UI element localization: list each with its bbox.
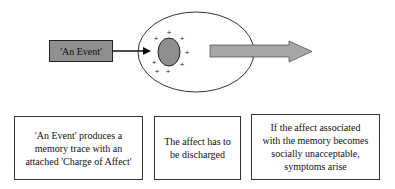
box-line: The affect has to — [164, 135, 231, 148]
box-line: symptoms arise — [263, 160, 369, 173]
box-line: memory trace with an — [25, 142, 131, 155]
plus-icon: + — [180, 34, 185, 43]
discharge-explanation-box: The affect has to be discharged — [154, 116, 241, 180]
plus-icon: + — [185, 48, 190, 57]
discharge-arrow — [210, 41, 312, 62]
box-line: with the memory becomes — [263, 134, 369, 147]
box-line: be discharged — [164, 148, 231, 161]
plus-icon: + — [152, 58, 157, 67]
plus-icon: + — [155, 67, 160, 76]
box-line: 'An Event' produces a — [25, 129, 131, 142]
plus-icon: + — [180, 60, 185, 69]
box-line: attached 'Charge of Affect' — [25, 155, 131, 168]
box-line: If the affect associated — [263, 121, 369, 134]
box-line: socially unacceptable, — [263, 147, 369, 160]
memory-trace-node — [158, 38, 180, 66]
event-arrow — [113, 47, 151, 55]
event-label: 'An Event' — [60, 46, 102, 57]
diagram-canvas: + + + + + + + + 'An Event' 'An Event' pr… — [0, 0, 395, 189]
memory-trace-explanation-box: 'An Event' produces a memory trace with … — [14, 116, 143, 180]
plus-icon: + — [154, 34, 159, 43]
event-box: 'An Event' — [49, 40, 113, 62]
plus-icon: + — [167, 28, 172, 37]
symptoms-explanation-box: If the affect associated with the memory… — [251, 114, 380, 180]
plus-icon: + — [166, 67, 171, 76]
